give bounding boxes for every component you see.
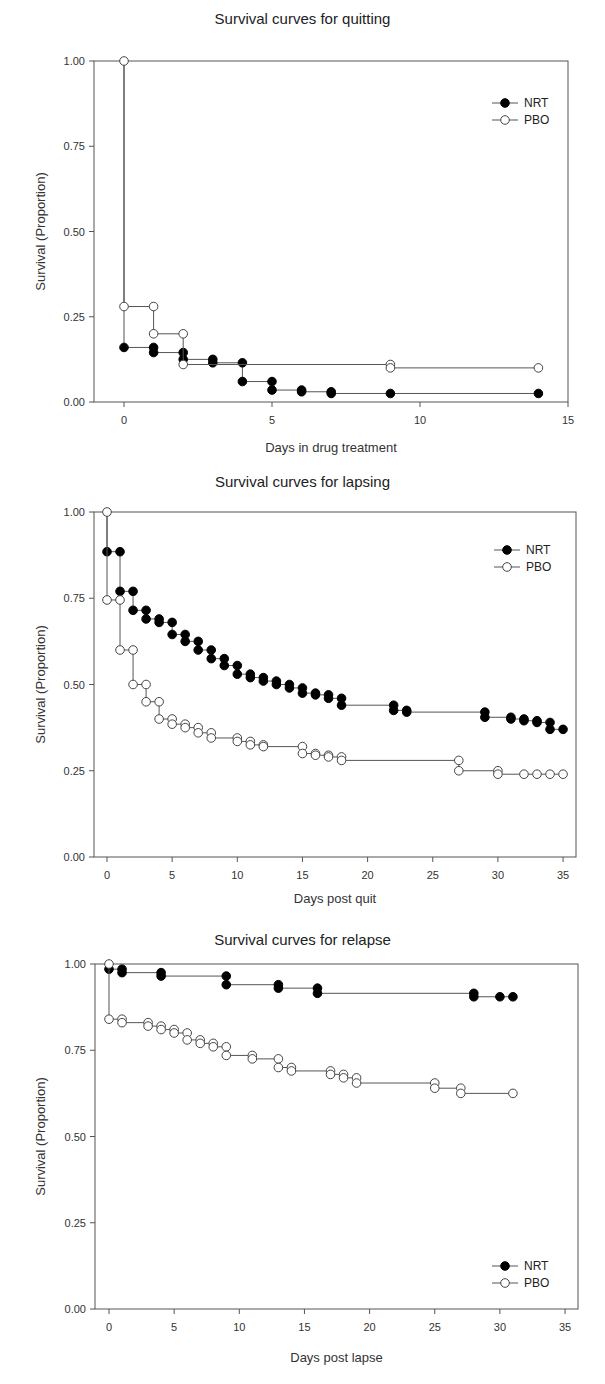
data-point xyxy=(194,729,203,738)
data-point xyxy=(509,1089,518,1098)
data-point xyxy=(533,770,542,779)
y-tick-label: 0.75 xyxy=(64,140,85,152)
data-point xyxy=(534,364,543,373)
data-point xyxy=(285,684,294,693)
y-tick-label: 0.25 xyxy=(64,765,85,777)
data-point xyxy=(105,1015,114,1024)
legend: NRTPBO xyxy=(492,1259,549,1290)
data-point xyxy=(268,386,277,395)
filled-circle-icon xyxy=(501,1262,510,1271)
data-point xyxy=(386,364,395,373)
data-point xyxy=(129,680,138,689)
x-tick-label: 20 xyxy=(361,869,373,881)
open-circle-icon xyxy=(503,563,512,572)
data-point xyxy=(118,968,127,977)
data-point xyxy=(179,360,188,369)
x-tick-label: 0 xyxy=(121,414,127,426)
data-point xyxy=(337,701,346,710)
data-point xyxy=(238,377,247,386)
filled-circle-icon xyxy=(503,546,512,555)
y-tick-label: 1.00 xyxy=(65,958,86,970)
data-point xyxy=(155,715,164,724)
data-point xyxy=(233,661,242,670)
data-point xyxy=(120,302,129,311)
y-tick-label: 0.25 xyxy=(64,311,85,323)
x-tick-label: 25 xyxy=(427,869,439,881)
legend: NRTPBO xyxy=(494,543,551,574)
data-point xyxy=(533,718,542,727)
data-point xyxy=(155,697,164,706)
data-point xyxy=(268,377,277,386)
x-tick-label: 20 xyxy=(363,1321,375,1333)
data-point xyxy=(402,708,411,717)
plot-area: 0.000.250.500.751.00051015NRTPBO xyxy=(0,0,605,460)
x-tick-label: 25 xyxy=(429,1321,441,1333)
x-tick-label: 15 xyxy=(298,1321,310,1333)
legend-label: PBO xyxy=(524,113,549,127)
series-nrt xyxy=(103,512,568,734)
series-pbo xyxy=(120,57,543,373)
data-point xyxy=(116,596,125,605)
series-pbo xyxy=(105,960,518,1098)
data-point xyxy=(183,1036,192,1045)
data-point xyxy=(559,725,568,734)
data-point xyxy=(386,389,395,398)
data-point xyxy=(207,646,216,655)
y-tick-label: 1.00 xyxy=(64,506,85,518)
y-tick-label: 0.50 xyxy=(64,226,85,238)
data-point xyxy=(339,1074,348,1083)
series-pbo xyxy=(103,508,568,779)
data-point xyxy=(142,680,151,689)
data-point xyxy=(287,1067,296,1076)
data-point xyxy=(116,547,125,556)
data-point xyxy=(170,1029,179,1038)
data-point xyxy=(259,742,268,751)
chart-relapse: Survival curves for relapse Survival (Pr… xyxy=(0,900,605,1384)
data-point xyxy=(142,615,151,624)
data-point xyxy=(559,770,568,779)
data-point xyxy=(274,1055,283,1064)
data-point xyxy=(222,1043,231,1052)
data-point xyxy=(298,749,307,758)
data-point xyxy=(297,387,306,396)
data-point xyxy=(324,694,333,703)
data-point xyxy=(259,677,268,686)
data-point xyxy=(246,673,255,682)
x-tick-label: 5 xyxy=(169,869,175,881)
data-point xyxy=(142,606,151,615)
data-point xyxy=(222,980,231,989)
legend-label: NRT xyxy=(524,1259,549,1273)
data-point xyxy=(142,697,151,706)
data-point xyxy=(248,1055,257,1064)
data-point xyxy=(149,302,158,311)
data-point xyxy=(337,756,346,765)
data-point xyxy=(105,960,114,969)
data-point xyxy=(168,630,177,639)
data-point xyxy=(274,1063,283,1072)
data-point xyxy=(326,1070,335,1079)
legend-label: PBO xyxy=(524,1276,549,1290)
legend: NRTPBO xyxy=(492,96,549,127)
data-point xyxy=(155,618,164,627)
y-tick-label: 0.75 xyxy=(65,1044,86,1056)
y-tick-label: 0.00 xyxy=(64,396,85,408)
plot-area: 0.000.250.500.751.0005101520253035NRTPBO xyxy=(0,460,605,900)
x-tick-label: 5 xyxy=(171,1321,177,1333)
data-point xyxy=(430,1084,439,1093)
data-point xyxy=(196,1039,205,1048)
data-point xyxy=(207,734,216,743)
y-tick-label: 0.50 xyxy=(64,679,85,691)
data-point xyxy=(274,984,283,993)
data-point xyxy=(120,57,129,66)
data-point xyxy=(546,725,555,734)
data-point xyxy=(457,1089,466,1098)
data-point xyxy=(534,389,543,398)
legend-label: PBO xyxy=(526,560,551,574)
data-point xyxy=(327,389,336,398)
data-point xyxy=(207,654,216,663)
data-point xyxy=(311,751,320,760)
open-circle-icon xyxy=(501,1279,510,1288)
data-point xyxy=(116,587,125,596)
legend-label: NRT xyxy=(526,543,551,557)
data-point xyxy=(455,766,464,775)
